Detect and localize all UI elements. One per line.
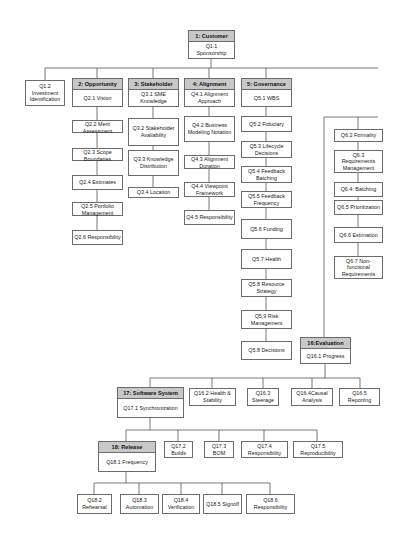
node-q17-5: Q17.5 Reproducibility <box>293 441 343 458</box>
node-text: Q18.5 Signoff <box>204 495 241 513</box>
node-text: Q17.5 Reproducibility <box>294 442 342 457</box>
node-text: Q5.2 Fiduciary <box>242 117 291 131</box>
node-text: Q4.5 Responsibility <box>185 211 234 224</box>
node-q3-3: Q3.3 Knowledge Distribution <box>128 150 179 176</box>
node-title: 3: Stakeholder <box>129 79 178 90</box>
node-q18-6: Q18.6 Responsibility <box>246 494 295 514</box>
node-text: Q18.1 Frequency <box>99 453 155 471</box>
node-q17-3: Q17.3 BOM <box>204 441 234 458</box>
node-q2-6: Q2.6 Responsibility <box>72 230 123 245</box>
node-text: Q2.1 Vision <box>73 90 122 106</box>
node-alignment: 4: AlignmentQ4.1 Alignment Approach <box>184 78 235 107</box>
node-q5-8d: Q5.8 Decisions <box>241 341 292 360</box>
node-q4-2: Q4.2 Business Modeling Notation <box>184 116 235 142</box>
node-q2-2: Q2.2 Merit Assessment <box>72 120 123 133</box>
node-title: 16:Evaluation <box>301 338 350 349</box>
node-stakeholder: 3: StakeholderQ3.1 SME Knowledge <box>128 78 179 107</box>
node-text: Q4.2 Business Modeling Notation <box>185 117 234 141</box>
node-text: Q1.2 Investment Identification <box>26 81 64 105</box>
node-text: Q5.4 Feedback Batching <box>242 167 291 182</box>
node-opportunity: 2: OpportunityQ2.1 Vision <box>72 78 123 107</box>
node-title: 2: Opportunity <box>73 79 122 90</box>
node-q5-6: Q5.6 Funding <box>241 219 292 239</box>
node-q4-5: Q4.5 Responsibility <box>184 210 235 225</box>
node-q6-7: Q6.7 Non-functional Requirements <box>334 256 383 279</box>
node-q18-5: Q18.5 Signoff <box>203 494 242 514</box>
node-q3-4: Q3.4 Location <box>128 187 179 198</box>
node-text: Q16.2 Health & Stability <box>190 389 235 405</box>
node-governance: 5: GovernanceQ5.1 WBS <box>241 78 292 107</box>
node-text: Q3.2 Stakeholder Availability <box>129 119 178 145</box>
node-text: Q17.2 Builds <box>165 442 192 457</box>
node-text: Q2.4 Estimates <box>73 176 122 189</box>
node-q2-3: Q2.3 Scope Boundaries <box>72 148 123 161</box>
node-q5-5: Q5.5 Feedback Frequency <box>241 191 292 208</box>
node-q6-5: Q6.5 Prioritization <box>334 200 383 215</box>
node-q3-2: Q3.2 Stakeholder Availability <box>128 118 179 146</box>
diagram-canvas: 1: CustomerQ1.1 SponsorshipQ1.2 Investme… <box>0 0 406 545</box>
node-title: 17: Software System <box>118 388 183 399</box>
node-q1-2: Q1.2 Investment Identification <box>25 80 65 106</box>
node-q4-3: Q4.3 Alignment Duration <box>184 155 235 169</box>
node-text: Q17.3 BOM <box>205 442 233 457</box>
node-q2-5: Q2.5 Portfolio Management <box>72 202 123 216</box>
node-text: Q2.6 Responsibility <box>73 231 122 244</box>
node-text: Q18.2 Rehearsal <box>78 495 111 513</box>
node-q18-3: Q18.3 Automation <box>120 494 159 514</box>
node-title: 18: Release <box>99 442 155 453</box>
node-text: Q4.4 Viewpoint Framework <box>185 183 234 196</box>
node-text: Q16.3 Steerage <box>248 389 278 405</box>
node-q5-2: Q5.2 Fiduciary <box>241 116 292 132</box>
node-text: Q6.5 Prioritization <box>335 201 382 214</box>
node-text: Q3.4 Location <box>129 188 178 197</box>
node-text: Q6.6 Estimation <box>335 228 382 242</box>
node-text: Q18.6 Responsibility <box>247 495 294 513</box>
node-q5-4: Q5.4 Feedback Batching <box>241 166 292 183</box>
node-text: Q6.7 Non-functional Requirements <box>335 257 382 278</box>
node-q16-4: Q16.4Causal Analysis <box>291 388 333 406</box>
node-text: Q2.5 Portfolio Management <box>73 203 122 216</box>
node-title: 1: Customer <box>189 31 234 42</box>
node-text: Q5.7 Health <box>242 250 291 268</box>
node-text: Q18.4 Verification <box>163 495 199 513</box>
node-text: Q5.8 Resource Strategy <box>242 280 291 296</box>
node-text: Q5.5 Feedback Frequency <box>242 192 291 207</box>
node-release: 18: ReleaseQ18.1 Frequency <box>98 441 156 472</box>
node-software: 17: Software SystemQ17.1 Synchronization <box>117 387 184 418</box>
node-q5-7: Q5.7 Health <box>241 249 292 269</box>
node-text: Q18.3 Automation <box>121 495 158 513</box>
node-text: Q4.3 Alignment Duration <box>185 156 234 169</box>
node-q17-4: Q17.4 Responsibility <box>241 441 288 458</box>
node-q5-9: Q5.9 Risk Management <box>241 310 292 329</box>
node-text: Q5.1 WBS <box>242 90 291 106</box>
node-q18-2: Q18.2 Rehearsal <box>77 494 112 514</box>
node-customer: 1: CustomerQ1.1 Sponsorship <box>188 30 235 59</box>
node-text: Q6.3 Requirements Management <box>335 151 382 172</box>
node-text: Q5.8 Decisions <box>242 342 291 359</box>
node-text: Q16.4Causal Analysis <box>292 389 332 405</box>
node-q6-3: Q6.3 Requirements Management <box>334 150 383 173</box>
node-evaluation: 16:EvaluationQ16.1 Progress <box>300 337 351 364</box>
node-text: Q4.1 Alignment Approach <box>185 90 234 106</box>
node-q16-2: Q16.2 Health & Stability <box>189 388 236 406</box>
node-title: 4: Alignment <box>185 79 234 90</box>
node-q16-3: Q16.3 Steerage <box>247 388 279 406</box>
node-title: 5: Governance <box>242 79 291 90</box>
node-q17-2: Q17.2 Builds <box>164 441 193 458</box>
node-q6-2: Q6.2 Formality <box>334 129 383 142</box>
node-text: Q3.1 SME Knowledge <box>129 90 178 106</box>
node-q2-4: Q2.4 Estimates <box>72 175 123 190</box>
node-text: Q17.4 Responsibility <box>242 442 287 457</box>
node-q18-4: Q18.4 Verification <box>162 494 200 514</box>
node-text: Q5.9 Risk Management <box>242 311 291 328</box>
node-q4-4: Q4.4 Viewpoint Framework <box>184 182 235 197</box>
node-text: Q17.1 Synchronization <box>118 399 183 417</box>
node-text: Q16.5 Reporting <box>340 389 379 405</box>
node-text: Q1.1 Sponsorship <box>189 42 234 58</box>
node-text: Q2.2 Merit Assessment <box>73 121 122 134</box>
node-q5-3: Q5.3 Lifecycle Decisions <box>241 141 292 158</box>
node-text: Q6.2 Formality <box>335 130 382 141</box>
node-text: Q5.3 Lifecycle Decisions <box>242 142 291 157</box>
node-text: Q2.3 Scope Boundaries <box>73 149 122 162</box>
node-text: Q5.6 Funding <box>242 220 291 238</box>
